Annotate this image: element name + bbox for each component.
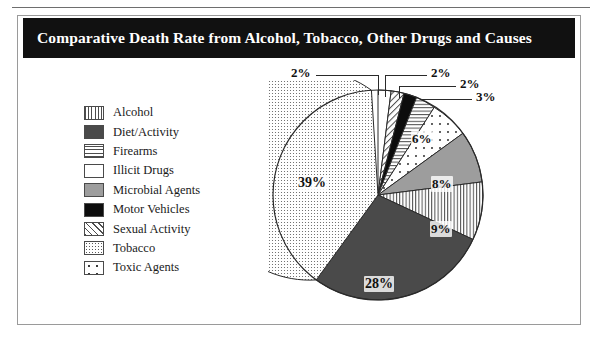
legend-label-sexual-activity: Sexual Activity: [113, 222, 190, 237]
legend-item-tobacco: Tobacco: [84, 239, 264, 258]
swatch-sexual-activity-icon: [84, 222, 104, 236]
swatch-tobacco-icon: [84, 241, 104, 255]
legend-label-motor-vehicles: Motor Vehicles: [113, 202, 190, 217]
pie-label-firearms: 3%: [476, 89, 496, 105]
swatch-motor-vehicles-icon: [84, 203, 104, 217]
leader-line-illicit-drugs-v: [378, 75, 379, 95]
legend-item-firearms: Firearms: [84, 142, 264, 161]
legend-label-tobacco: Tobacco: [113, 241, 155, 256]
legend-label-diet-activity: Diet/Activity: [113, 125, 179, 140]
chart-title: Comparative Death Rate from Alcohol, Tob…: [23, 29, 532, 47]
swatch-alcohol-icon: [84, 106, 104, 120]
swatch-toxic-agents-icon: [84, 261, 104, 275]
swatch-illicit-drugs-icon: [84, 164, 104, 178]
swatch-firearms-icon: [84, 144, 104, 158]
pie-label-alcohol: 9%: [430, 221, 452, 237]
pie-label-microbial-agents: 8%: [431, 176, 453, 192]
figure-stage: Comparative Death Rate from Alcohol, Tob…: [0, 0, 598, 340]
legend-item-motor-vehicles: Motor Vehicles: [84, 200, 264, 219]
swatch-microbial-agents-icon: [84, 183, 104, 197]
legend-item-microbial-agents: Microbial Agents: [84, 181, 264, 200]
leader-line-firearms-h: [420, 99, 472, 100]
chart-title-banner: Comparative Death Rate from Alcohol, Tob…: [23, 18, 575, 58]
legend-label-microbial-agents: Microbial Agents: [113, 183, 200, 198]
pie-label-sexual-activity: 2%: [431, 65, 451, 81]
leader-line-motor-vehicles-h: [399, 86, 456, 87]
pie-label-tobacco: 39%: [297, 175, 327, 191]
legend-label-illicit-drugs: Illicit Drugs: [113, 163, 174, 178]
pie-label-toxic-agents: 6%: [411, 131, 433, 147]
legend-item-toxic-agents: Toxic Agents: [84, 258, 264, 277]
page-top-rule: [12, 7, 590, 8]
legend-label-firearms: Firearms: [113, 144, 157, 159]
leader-line-sexual-activity-v: [385, 75, 386, 97]
leader-line-sexual-activity-h: [385, 75, 427, 76]
legend-item-alcohol: Alcohol: [84, 103, 264, 122]
legend-item-illicit-drugs: Illicit Drugs: [84, 161, 264, 180]
leader-line-illicit-drugs-h: [316, 75, 378, 76]
legend-item-sexual-activity: Sexual Activity: [84, 219, 264, 238]
chart-legend: Alcohol Diet/Activity Firearms Illicit D…: [84, 103, 264, 278]
swatch-diet-activity-icon: [84, 125, 104, 139]
pie-label-diet-activity: 28%: [364, 276, 394, 292]
legend-label-alcohol: Alcohol: [113, 105, 153, 120]
pie-chart: 2% 2% 2% 3% 6% 8% 9% 28% 39%: [268, 80, 498, 312]
legend-label-toxic-agents: Toxic Agents: [113, 260, 179, 275]
leader-line-motor-vehicles-v: [399, 86, 400, 98]
legend-item-diet-activity: Diet/Activity: [84, 122, 264, 141]
pie-label-illicit-drugs: 2%: [291, 65, 311, 81]
